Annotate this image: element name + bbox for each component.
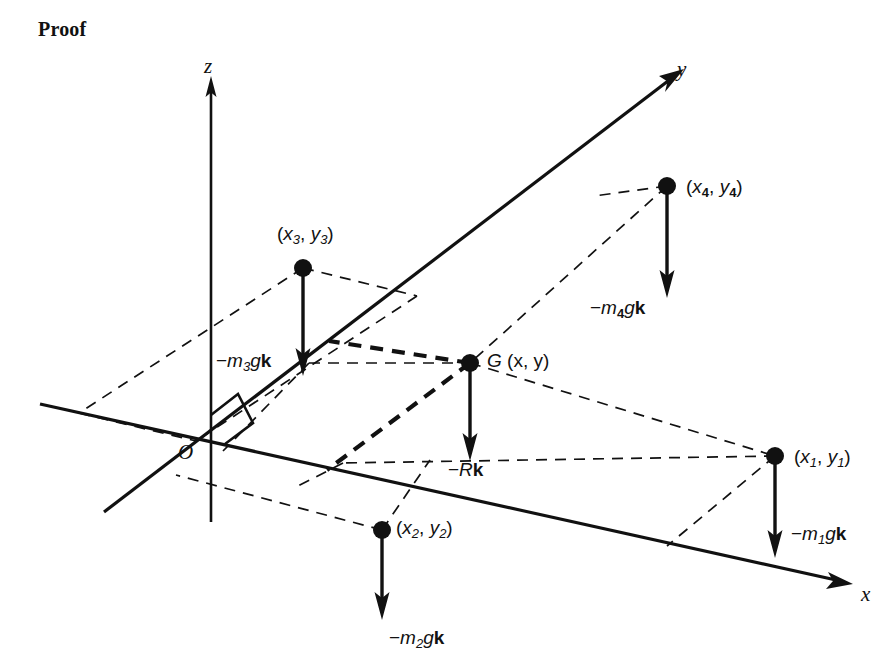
coord-sub-m4-x: 4 <box>702 185 709 200</box>
coord-label-m4: (x4, y4) <box>686 177 743 199</box>
centroid-force-k: k <box>473 459 484 480</box>
force-prefix-m1: − <box>791 523 802 544</box>
coord-sub-m3-x: 3 <box>293 232 300 247</box>
coord-y-m4: y <box>720 176 730 197</box>
force-m-m2: m <box>400 627 416 648</box>
force-label-m3: −m3gk <box>216 351 271 373</box>
coord-label-m2: (x2, y2) <box>396 518 453 540</box>
force-k-m3: k <box>261 350 272 371</box>
mass-point-m3 <box>294 259 312 376</box>
centroid-force-prefix: − <box>448 459 459 480</box>
projection-lines-m4 <box>470 186 667 363</box>
coord-close-m3: ) <box>327 223 333 244</box>
coord-label-m3: (x3, y3) <box>277 224 334 246</box>
force-m-m4: m <box>601 297 617 318</box>
centroid-label: G (x, y) <box>487 351 549 370</box>
x-axis <box>40 404 853 589</box>
z-axis <box>206 76 217 522</box>
coord-label-m1: (x1, y1) <box>794 447 851 469</box>
mass-point-m4 <box>658 177 676 298</box>
centroid-force-R: R <box>459 459 473 480</box>
coord-x-m3: x <box>283 223 293 244</box>
force-m-m1: m <box>802 523 818 544</box>
coord-x-m2: x <box>402 517 412 538</box>
x-axis-label: x <box>861 584 870 605</box>
projection-lines-m2 <box>176 460 430 530</box>
centroid-ybar: y <box>533 350 543 371</box>
z-axis-label: z <box>204 56 212 77</box>
force-label-m1: −m1gk <box>791 524 846 546</box>
coord-y-m3: y <box>311 223 321 244</box>
mass-point-m1 <box>766 447 784 558</box>
origin-label: O <box>178 442 193 463</box>
force-k-m2: k <box>434 627 445 648</box>
force-label-m4: −m4gk <box>590 298 645 320</box>
coord-comma-m4: , <box>709 176 714 197</box>
centroid-projection-lines <box>327 341 470 470</box>
base-grid-dashes <box>223 363 775 486</box>
centroid-xbar: x <box>513 350 523 371</box>
coord-sub-m2-x: 2 <box>412 526 419 541</box>
force-g-m3: g <box>250 350 261 371</box>
coord-close-m2: ) <box>446 517 452 538</box>
centroid-name: G <box>487 350 502 371</box>
coord-x-m4: x <box>692 176 702 197</box>
force-prefix-m2: − <box>389 627 400 648</box>
force-m-m3: m <box>227 350 243 371</box>
force-label-m2: −m2gk <box>389 628 444 650</box>
y-axis-label: y <box>677 59 686 80</box>
coord-comma-m1: , <box>817 446 822 467</box>
coord-x-m1: x <box>800 446 810 467</box>
centroid-paren-close: ) <box>543 350 549 371</box>
centroid-force-label: −Rk <box>448 460 483 479</box>
force-g-m4: g <box>624 297 635 318</box>
force-g-m1: g <box>825 523 836 544</box>
force-prefix-m4: − <box>590 297 601 318</box>
coord-y-m1: y <box>828 446 838 467</box>
force-prefix-m3: − <box>216 350 227 371</box>
force-k-m4: k <box>635 297 646 318</box>
force-k-m1: k <box>836 523 847 544</box>
centroid-comma: , <box>523 350 528 371</box>
coord-y-m2: y <box>430 517 440 538</box>
coord-close-m1: ) <box>844 446 850 467</box>
mass-point-m2 <box>373 521 391 620</box>
coord-sub-m1-x: 1 <box>810 455 817 470</box>
coord-comma-m2: , <box>419 517 424 538</box>
force-g-m2: g <box>423 627 434 648</box>
coord-close-m4: ) <box>736 176 742 197</box>
coord-comma-m3: , <box>300 223 305 244</box>
